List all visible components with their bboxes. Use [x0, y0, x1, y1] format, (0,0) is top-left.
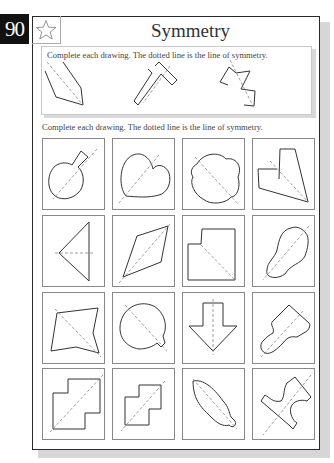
- page-number: 90: [0, 14, 29, 44]
- exercise-round-tab[interactable]: [112, 292, 175, 364]
- exercise-steps-small[interactable]: [112, 368, 175, 440]
- page-title: Symmetry: [61, 17, 320, 45]
- example-kite[interactable]: [45, 62, 83, 105]
- exercise-diamond[interactable]: [112, 215, 175, 287]
- exercise-keyhole[interactable]: [42, 138, 105, 210]
- exercise-instruction: Complete each drawing. The dotted line i…: [42, 122, 263, 132]
- exercise-steps-large[interactable]: [42, 368, 105, 440]
- exercise-triangle[interactable]: [42, 215, 105, 287]
- exercise-peanut[interactable]: [252, 215, 315, 287]
- exercise-quadrilateral[interactable]: [42, 292, 105, 364]
- exercise-clover[interactable]: [182, 138, 245, 210]
- example-drawings: [42, 47, 313, 116]
- star-badge: [32, 16, 61, 44]
- example-t-shape[interactable]: [134, 62, 177, 105]
- exercise-heart[interactable]: [112, 138, 175, 210]
- exercise-paddle[interactable]: [252, 292, 315, 364]
- exercise-notched-square[interactable]: [182, 215, 245, 287]
- star-icon: [35, 19, 57, 41]
- example-zigzag[interactable]: [220, 60, 255, 108]
- example-box: Complete each drawing. The dotted line i…: [41, 46, 312, 115]
- exercise-leaf[interactable]: [182, 368, 245, 440]
- exercise-arrow-down[interactable]: [182, 292, 245, 364]
- exercise-puzzle-piece[interactable]: [252, 368, 315, 440]
- exercise-l-shape[interactable]: [252, 138, 315, 210]
